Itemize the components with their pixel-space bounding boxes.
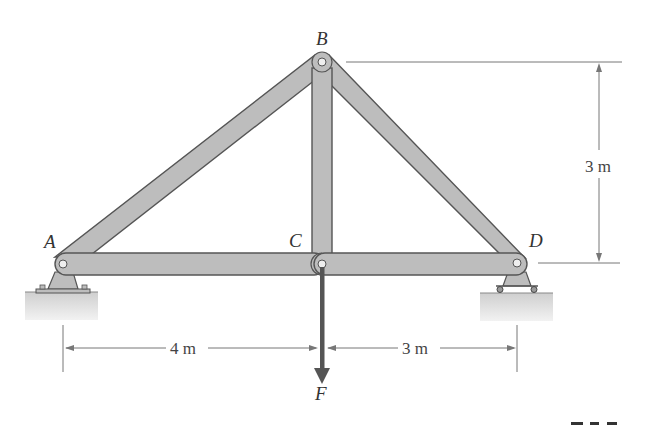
label-b: B	[316, 28, 328, 49]
member-bc	[312, 68, 332, 266]
ground-right	[480, 293, 553, 321]
ground-left	[25, 292, 98, 320]
member-ac	[55, 253, 325, 275]
label-a: A	[42, 231, 56, 252]
height-dimension-label: 3 m	[585, 157, 611, 176]
force-arrow-f	[314, 267, 330, 384]
label-d: D	[528, 230, 543, 251]
joint-a	[59, 260, 67, 268]
right-span-label: 3 m	[402, 339, 428, 358]
left-span-label: 4 m	[170, 339, 196, 358]
member-bd	[315, 55, 525, 258]
member-ab	[55, 55, 329, 257]
truss-diagram: B A C D F 3 m 4 m 3 m	[0, 0, 651, 425]
member-cd	[314, 253, 527, 275]
label-f: F	[314, 383, 327, 404]
joint-b	[312, 52, 332, 72]
joint-d	[513, 259, 521, 267]
dimension-spans: 4 m 3 m	[63, 325, 517, 372]
label-c: C	[289, 230, 302, 251]
